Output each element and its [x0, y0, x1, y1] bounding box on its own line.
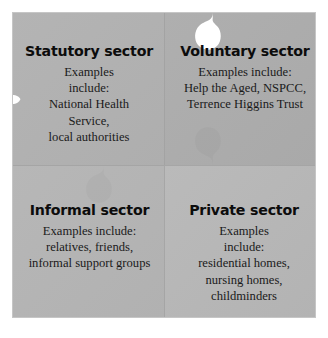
- piece-body-line: Service,: [14, 113, 164, 129]
- piece-label-private: Private sector Examples include: residen…: [168, 203, 320, 304]
- piece-body-line: Terrence Higgins Trust: [166, 96, 324, 112]
- piece-body-line: relatives, friends,: [12, 239, 167, 255]
- piece-body-line: informal support groups: [12, 255, 167, 271]
- piece-body-line: include:: [168, 239, 320, 255]
- piece-body-line: childminders: [168, 288, 320, 304]
- piece-title-voluntary: Voluntary sector: [166, 44, 324, 60]
- piece-body-line: Examples include:: [12, 223, 167, 239]
- piece-body-voluntary: Examples include: Help the Aged, NSPCC, …: [166, 64, 324, 113]
- diagram-canvas: Statutory sector Examples include: Natio…: [0, 0, 328, 338]
- piece-body-line: Help the Aged, NSPCC,: [166, 80, 324, 96]
- piece-body-line: local authorities: [14, 129, 164, 145]
- piece-body-informal: Examples include: relatives, friends, in…: [12, 223, 167, 272]
- piece-body-line: National Health: [14, 96, 164, 112]
- piece-label-statutory: Statutory sector Examples include: Natio…: [14, 44, 164, 145]
- piece-body-line: residential homes,: [168, 255, 320, 271]
- piece-title-statutory: Statutory sector: [14, 44, 164, 60]
- piece-label-informal: Informal sector Examples include: relati…: [12, 203, 167, 272]
- piece-body-statutory: Examples include: National Health Servic…: [14, 64, 164, 146]
- piece-label-voluntary: Voluntary sector Examples include: Help …: [166, 44, 324, 113]
- piece-body-line: nursing homes,: [168, 272, 320, 288]
- piece-body-line: Examples: [14, 64, 164, 80]
- piece-body-line: Examples: [168, 223, 320, 239]
- piece-title-private: Private sector: [168, 203, 320, 219]
- piece-title-informal: Informal sector: [12, 203, 167, 219]
- piece-body-line: Examples include:: [166, 64, 324, 80]
- piece-body-line: include:: [14, 80, 164, 96]
- piece-body-private: Examples include: residential homes, nur…: [168, 223, 320, 305]
